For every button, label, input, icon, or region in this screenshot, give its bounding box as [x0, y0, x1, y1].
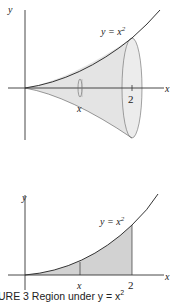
shaded-region: [25, 225, 132, 275]
y-axis-label: y: [21, 192, 27, 203]
tick-label-2: 2: [128, 93, 134, 105]
diagram-canvas: y x 2 x y = x2 y x x 2 y = x2: [0, 0, 175, 302]
curve-label: y = x2: [99, 215, 125, 227]
x-axis-label: x: [164, 271, 170, 282]
region-under-curve-figure: y x x 2 y = x2: [8, 192, 170, 291]
slice-x-label: x: [76, 103, 82, 114]
solid-of-revolution-figure: y x 2 x y = x2: [7, 4, 170, 140]
y-axis-label: y: [7, 4, 13, 15]
x-axis-label: x: [164, 83, 170, 94]
tick-label-2: 2: [128, 279, 134, 291]
figure-caption: URE 3 Region under y = x2: [0, 289, 124, 302]
curve-label: y = x2: [100, 25, 126, 37]
